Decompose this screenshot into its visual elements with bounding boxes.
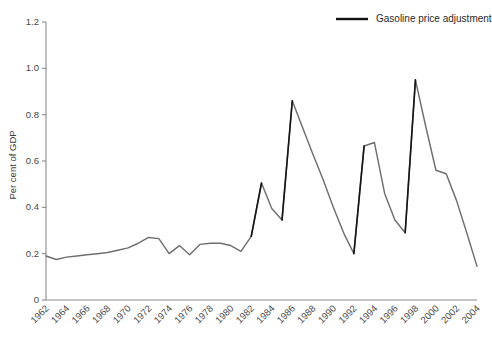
series-line-segment-steep bbox=[251, 183, 261, 236]
series-line-segment-steep bbox=[405, 80, 415, 233]
x-axis-tick-label: 1968 bbox=[90, 303, 113, 326]
x-axis-tick-label: 1962 bbox=[28, 303, 51, 326]
x-axis: 1962196419661968197019721974197619781980… bbox=[28, 300, 482, 325]
x-axis-tick-label: 1992 bbox=[336, 303, 359, 326]
x-axis-tick-label: 1980 bbox=[213, 303, 236, 326]
x-axis-tick-label: 2002 bbox=[439, 303, 462, 326]
x-axis-tick-label: 1974 bbox=[151, 303, 174, 326]
y-axis-tick-label: 0.8 bbox=[26, 109, 39, 120]
x-axis-tick-label: 1988 bbox=[295, 303, 318, 326]
x-axis-tick-label: 1972 bbox=[131, 303, 154, 326]
x-axis-tick-label: 1998 bbox=[398, 303, 421, 326]
y-axis-title: Per cent of GDP bbox=[7, 130, 18, 199]
x-axis-tick-label: 1966 bbox=[69, 303, 92, 326]
x-axis-tick-label: 1970 bbox=[110, 303, 133, 326]
x-axis-tick-label: 1984 bbox=[254, 303, 277, 326]
x-axis-tick-label: 1986 bbox=[274, 303, 297, 326]
y-axis: 00.20.40.60.81.01.2 bbox=[26, 16, 46, 305]
x-axis-tick-label: 1978 bbox=[192, 303, 215, 326]
data-series-gasoline-price-adjustment bbox=[46, 80, 477, 266]
series-line-gasoline-price-adjustment bbox=[46, 80, 477, 266]
x-axis-tick-label: 2004 bbox=[459, 303, 482, 326]
x-axis-tick-label: 1964 bbox=[49, 303, 72, 326]
series-line-segment-steep bbox=[354, 146, 364, 254]
y-axis-tick-label: 0.2 bbox=[26, 248, 39, 259]
chart-plot-area: 00.20.40.60.81.01.2 19621964196619681970… bbox=[0, 0, 492, 348]
x-axis-tick-label: 1976 bbox=[172, 303, 195, 326]
chart-figure: 00.20.40.60.81.01.2 19621964196619681970… bbox=[0, 0, 492, 348]
y-axis-tick-label: 0.4 bbox=[26, 201, 39, 212]
series-line-segment-steep bbox=[282, 101, 292, 220]
y-axis-tick-label: 0.6 bbox=[26, 155, 39, 166]
x-axis-tick-label: 1982 bbox=[233, 303, 256, 326]
y-axis-tick-label: 1.2 bbox=[26, 16, 39, 27]
chart-legend: Gasoline price adjustment bbox=[336, 13, 492, 24]
y-axis-tick-label: 1.0 bbox=[26, 62, 39, 73]
x-axis-tick-label: 1996 bbox=[377, 303, 400, 326]
x-axis-tick-label: 2000 bbox=[418, 303, 441, 326]
legend-label-gasoline-price-adjustment: Gasoline price adjustment bbox=[376, 13, 492, 24]
x-axis-tick-label: 1994 bbox=[357, 303, 380, 326]
y-axis-tick-label: 0 bbox=[34, 294, 39, 305]
x-axis-tick-label: 1990 bbox=[316, 303, 339, 326]
